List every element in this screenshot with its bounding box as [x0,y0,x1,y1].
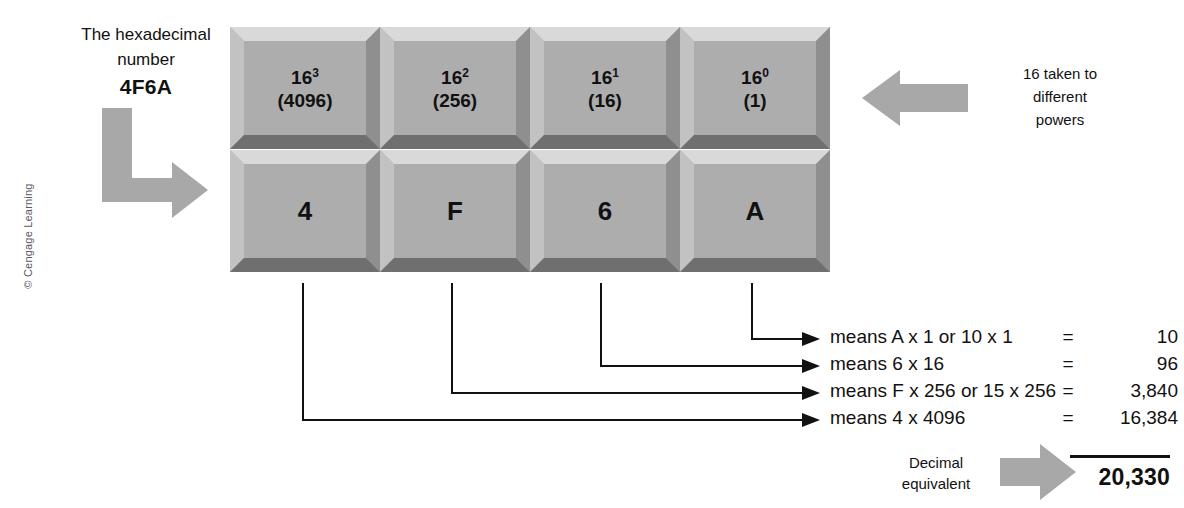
decimal-total: 20,330 [1056,464,1170,491]
digit-cell-2: 6 [530,150,680,272]
equation-value: 16,384 [1082,407,1178,429]
arrowhead-icon-F [802,386,820,400]
equals-sign: = [1058,353,1078,375]
equation-text: means A x 1 or 10 x 1 [830,326,1013,348]
digit-value: 4 [298,198,312,224]
power-exponent: 3 [312,66,319,80]
digit-cell-1: F [380,150,530,272]
power-exponent: 1 [612,66,619,80]
caption-line-1: The hexadecimal [52,22,240,47]
copyright-notice: © Cengage Learning [22,156,34,316]
digit-cell-label: A [680,150,830,272]
power-cell-label: 162 (256) [380,27,530,149]
power-expression: 162 [441,63,469,88]
equation-value: 96 [1082,353,1178,375]
equation-value: 10 [1082,326,1178,348]
digit-cell-label: 4 [230,150,380,272]
digit-value: F [447,198,463,224]
sum-rule [1070,455,1170,458]
digit-cell-label: 6 [530,150,680,272]
digit-cell-0: 4 [230,150,380,272]
power-cell-label: 163 (4096) [230,27,380,149]
hex-input-arrow-icon [102,108,208,218]
diagram-canvas: © Cengage Learning The hexadecimal numbe… [0,0,1184,508]
equation-text: means F x 256 or 15 x 256 [830,380,1056,402]
power-value: (1) [743,89,766,113]
equation-text: means 4 x 4096 [830,407,965,429]
caption-hex-value: 4F6A [52,72,240,102]
power-base: 16 [291,68,312,89]
power-base: 16 [441,68,462,89]
connector-digit-F [452,283,806,393]
power-value: (256) [433,89,477,113]
note-line-2: different [985,85,1135,108]
hex-number-caption: The hexadecimal number 4F6A [52,22,240,102]
digit-value: 6 [598,198,612,224]
power-cell-0: 163 (4096) [230,27,380,149]
decimal-label-line-1: Decimal [876,452,996,473]
note-line-1: 16 taken to [985,62,1135,85]
equals-sign: = [1058,326,1078,348]
place-value-grid: 163 (4096) 162 (256) 161 (16) [230,27,830,272]
connector-digit-A [752,283,806,339]
power-cell-2: 161 (16) [530,27,680,149]
power-expression: 163 [291,63,319,88]
power-exponent: 0 [762,66,769,80]
power-cell-3: 160 (1) [680,27,830,149]
arrowhead-icon-4 [802,413,820,427]
power-value: (16) [588,89,622,113]
arrowhead-icon-A [802,332,820,346]
connector-digit-6 [601,283,806,366]
equals-sign: = [1058,407,1078,429]
power-value: (4096) [278,89,333,113]
digit-connectors [303,283,806,420]
power-cell-label: 161 (16) [530,27,680,149]
power-cell-1: 162 (256) [380,27,530,149]
power-expression: 161 [591,63,619,88]
equation-value: 3,840 [1082,380,1178,402]
decimal-label-line-2: equivalent [876,473,996,494]
digit-cell-label: F [380,150,530,272]
powers-note: 16 taken to different powers [985,62,1135,131]
decimal-equivalent-label: Decimal equivalent [876,452,996,494]
digit-value: A [746,198,765,224]
powers-note-arrow-icon [862,70,968,126]
equation-text: means 6 x 16 [830,353,944,375]
arrowhead-icon-6 [802,359,820,373]
connector-digit-4 [303,283,806,420]
power-base: 16 [741,68,762,89]
power-cell-label: 160 (1) [680,27,830,149]
connector-arrowheads [802,332,820,427]
caption-line-2: number [52,47,240,72]
note-line-3: powers [985,108,1135,131]
power-base: 16 [591,68,612,89]
equals-sign: = [1058,380,1078,402]
power-exponent: 2 [462,66,469,80]
digit-cell-3: A [680,150,830,272]
power-expression: 160 [741,63,769,88]
